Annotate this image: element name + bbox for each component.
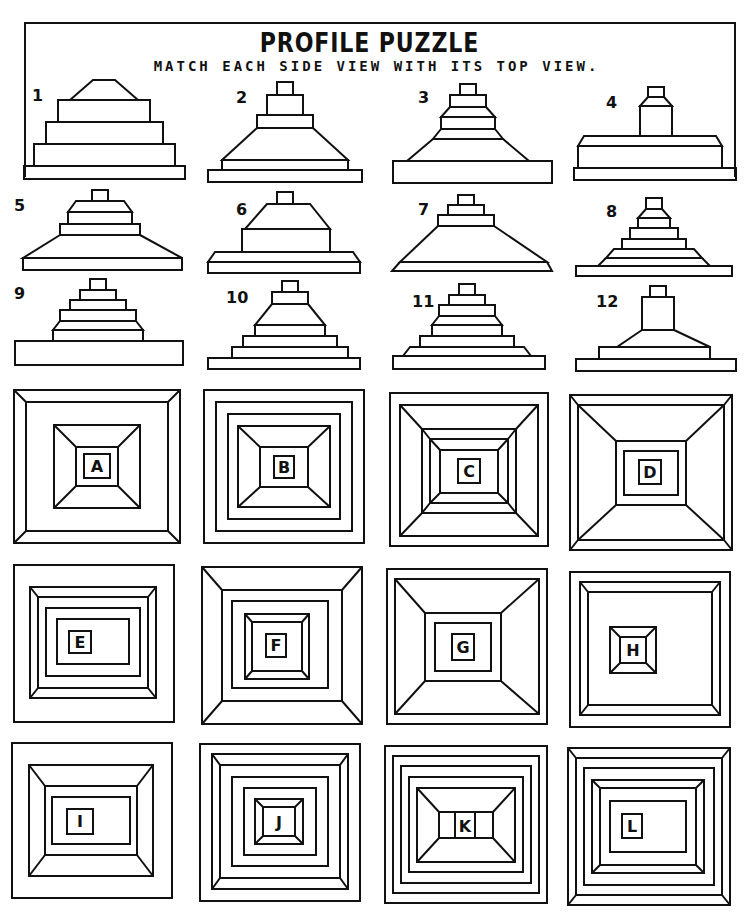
top-view-C: C xyxy=(390,393,560,558)
side-view-8 xyxy=(572,196,742,281)
svg-text:E: E xyxy=(75,633,86,652)
svg-text:F: F xyxy=(271,636,282,655)
svg-text:G: G xyxy=(456,638,469,657)
side-view-label: 4 xyxy=(606,93,617,112)
svg-text:L: L xyxy=(627,817,637,836)
side-view-3 xyxy=(390,82,555,187)
page-instructions: MATCH EACH SIDE VIEW WITH ITS TOP VIEW. xyxy=(0,58,753,74)
top-view-I: I xyxy=(12,743,182,908)
side-view-label: 5 xyxy=(14,196,25,215)
svg-text:A: A xyxy=(91,457,104,476)
side-view-label: 1 xyxy=(32,86,43,105)
top-view-G: G xyxy=(387,569,557,734)
side-view-label: 12 xyxy=(596,292,618,311)
side-view-label: 8 xyxy=(606,202,617,221)
svg-text:K: K xyxy=(459,817,472,836)
svg-text:B: B xyxy=(278,458,290,477)
side-view-6 xyxy=(205,190,365,275)
top-view-D: D xyxy=(570,395,740,560)
side-view-9 xyxy=(13,277,188,372)
top-view-B: B xyxy=(204,390,374,555)
side-view-label: 2 xyxy=(236,88,247,107)
side-view-5 xyxy=(20,188,190,273)
page-title: PROFILE PUZZLE xyxy=(50,28,690,58)
side-view-label: 3 xyxy=(418,88,429,107)
top-view-J: J xyxy=(200,744,370,909)
top-view-A: A xyxy=(14,390,184,555)
svg-text:I: I xyxy=(77,812,83,831)
top-view-L: L xyxy=(568,748,738,913)
svg-text:H: H xyxy=(626,641,639,660)
top-view-H: H xyxy=(570,572,740,737)
top-view-K: K xyxy=(385,746,555,911)
side-view-label: 7 xyxy=(418,200,429,219)
side-view-1 xyxy=(20,75,190,185)
side-view-label: 11 xyxy=(412,292,434,311)
side-view-2 xyxy=(205,80,365,185)
side-view-label: 6 xyxy=(236,200,247,219)
top-view-E: E xyxy=(14,565,184,730)
side-view-7 xyxy=(390,193,555,278)
side-view-4 xyxy=(572,84,742,189)
side-view-label: 10 xyxy=(226,288,248,307)
side-view-label: 9 xyxy=(14,284,25,303)
svg-text:J: J xyxy=(275,813,282,832)
svg-text:C: C xyxy=(463,462,475,481)
svg-text:D: D xyxy=(643,463,656,482)
top-view-F: F xyxy=(202,567,372,732)
